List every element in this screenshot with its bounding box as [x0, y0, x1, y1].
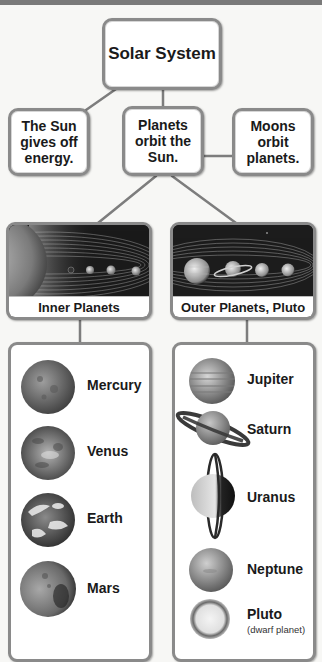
planet-name-saturn: Saturn	[247, 421, 291, 437]
inner-planets-label: Inner Planets	[9, 296, 149, 317]
pluto-dwarf-planet-note: (dwarf planet)	[247, 624, 305, 635]
planet-item-mercury: Mercury	[11, 359, 149, 419]
moons-orbit-text: Moons orbit planets.	[247, 118, 300, 166]
inner-planets-list: Mercury Venus Earth Mars	[8, 342, 152, 662]
outer-planets-list: Jupiter Saturn Uranus Neptune	[172, 342, 316, 662]
planet-item-mars: Mars	[11, 560, 149, 620]
planet-item-earth: Earth	[11, 492, 149, 552]
planet-name-neptune: Neptune	[247, 561, 303, 577]
moons-orbit-box: Moons orbit planets.	[232, 108, 314, 176]
sun-energy-text: The Sun gives off energy.	[20, 118, 78, 166]
neptune-icon	[188, 547, 234, 593]
sun-energy-box: The Sun gives off energy.	[8, 108, 90, 176]
saturn-icon	[173, 405, 253, 451]
inner-planets-card: Inner Planets	[6, 222, 152, 320]
planet-name-mars: Mars	[87, 580, 120, 596]
outer-planets-card: Outer Planets, Pluto	[170, 222, 316, 320]
mercury-icon	[20, 359, 76, 415]
pluto-icon	[189, 598, 231, 640]
jupiter-icon	[188, 357, 236, 405]
planets-orbit-box: Planets orbit the Sun.	[122, 106, 204, 176]
earth-icon	[20, 492, 76, 548]
planet-name-uranus: Uranus	[247, 489, 295, 505]
planet-name-jupiter: Jupiter	[247, 371, 294, 387]
planet-item-uranus: Uranus	[175, 451, 313, 541]
uranus-icon	[187, 451, 239, 541]
planet-name-venus: Venus	[87, 443, 128, 459]
planet-name-mercury: Mercury	[87, 377, 141, 393]
mars-icon	[19, 560, 77, 618]
solar-system-title: Solar System	[108, 44, 216, 64]
planet-item-pluto: Pluto (dwarf planet)	[175, 598, 313, 658]
inner-solar-system-image	[9, 225, 149, 297]
planet-name-earth: Earth	[87, 510, 123, 526]
solar-system-box: Solar System	[102, 18, 222, 90]
planet-item-venus: Venus	[11, 425, 149, 485]
outer-solar-system-image	[173, 225, 313, 297]
planet-name-pluto: Pluto	[247, 606, 282, 622]
planets-orbit-text: Planets orbit the Sun.	[135, 117, 191, 165]
venus-icon	[20, 425, 76, 481]
outer-planets-label: Outer Planets, Pluto	[173, 296, 313, 317]
